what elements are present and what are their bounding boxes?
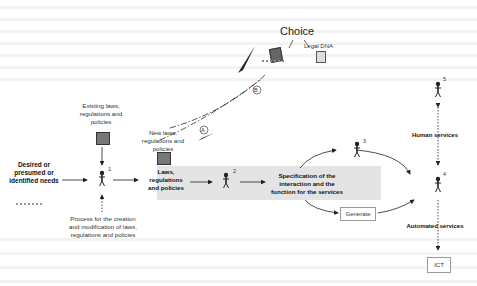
actor-icon-1 — [99, 171, 105, 186]
actor-number-3: 3 — [363, 138, 366, 144]
actor-number-1: 1 — [108, 166, 111, 172]
actor-number-5: 5 — [443, 76, 446, 82]
actor-icon-5 — [435, 82, 441, 97]
actor-icon-4 — [435, 177, 441, 192]
actor-figures — [0, 0, 477, 286]
actor-icon-3 — [354, 142, 360, 157]
actor-icon-2 — [223, 173, 229, 188]
actor-number-2: 2 — [233, 168, 236, 174]
actor-number-4: 4 — [443, 171, 446, 177]
